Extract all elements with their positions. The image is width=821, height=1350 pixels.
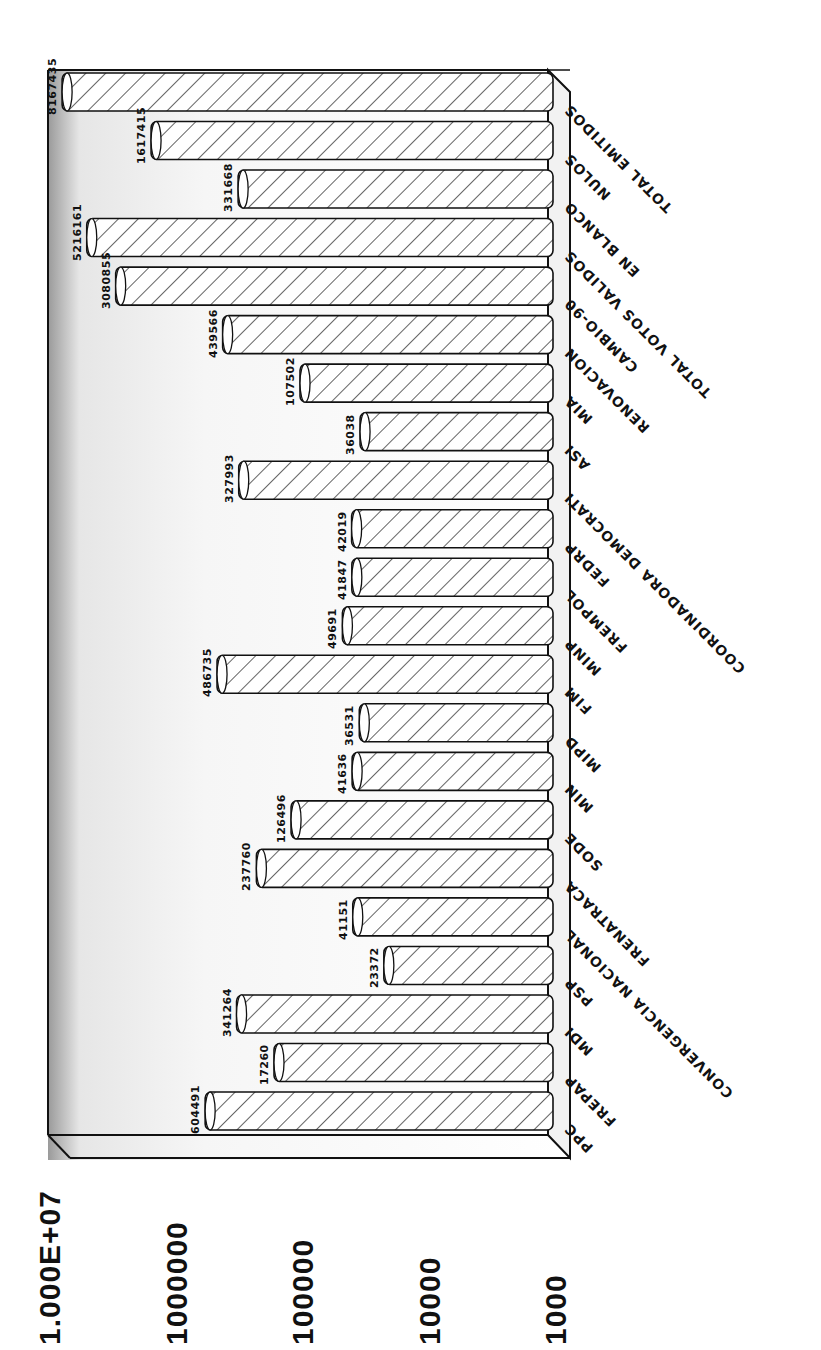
bar-frepap — [274, 1043, 553, 1081]
value-label: 1617415 — [135, 106, 148, 163]
value-label: 41151 — [337, 899, 350, 940]
bar-chart — [0, 0, 821, 1350]
bar-coordinadora-democrati — [239, 461, 553, 499]
value-label: 42019 — [336, 511, 349, 552]
value-label: 126496 — [275, 794, 288, 843]
bar-renovacion — [223, 316, 553, 354]
value-label: 107502 — [284, 357, 297, 406]
value-label: 237760 — [240, 842, 253, 891]
bar-frempol — [352, 558, 553, 596]
axis-tick-label: 1000 — [539, 1274, 573, 1345]
bar-mdi — [237, 995, 553, 1033]
bar-sode — [291, 801, 553, 839]
value-label: 5216161 — [71, 203, 84, 260]
value-label: 439566 — [207, 309, 220, 358]
value-label: 41636 — [336, 754, 349, 795]
bar-min — [352, 752, 553, 790]
value-label: 604491 — [189, 1085, 202, 1134]
axis-tick-label: 100000 — [286, 1239, 320, 1345]
bar-mipd — [359, 704, 553, 742]
bar-total-emitidos — [62, 73, 553, 111]
bar-en-blanco — [238, 170, 553, 208]
value-label: 327993 — [223, 454, 236, 503]
bar-psp — [384, 946, 553, 984]
bar-minp — [342, 607, 553, 645]
bar-ppc — [205, 1092, 553, 1130]
value-label: 41847 — [336, 559, 349, 600]
value-label: 341264 — [221, 988, 234, 1037]
value-label: 36038 — [344, 414, 357, 455]
value-label: 486735 — [201, 648, 214, 697]
value-label: 17260 — [258, 1045, 271, 1086]
axis-tick-label: 1.000E+07 — [33, 1190, 67, 1345]
axis-tick-label: 10000 — [413, 1257, 447, 1345]
value-label: 23372 — [368, 948, 381, 989]
value-label: 331668 — [222, 163, 235, 212]
axis-tick-label: 1000000 — [160, 1221, 194, 1345]
bar-nulos — [151, 122, 553, 160]
value-label: 36531 — [343, 705, 356, 746]
bar-fim — [217, 655, 553, 693]
bar-total-votos-validos — [87, 219, 553, 257]
value-label: 3080855 — [100, 252, 113, 309]
bar-convergencia-nacional — [353, 898, 553, 936]
bar-mia — [300, 364, 553, 402]
bar-fedrp — [352, 510, 553, 548]
bar-frenatraca — [256, 849, 553, 887]
value-label: 8167435 — [46, 58, 59, 115]
bar-asi — [360, 413, 553, 451]
bar-cambio-90 — [116, 267, 553, 305]
value-label: 49691 — [326, 608, 339, 649]
